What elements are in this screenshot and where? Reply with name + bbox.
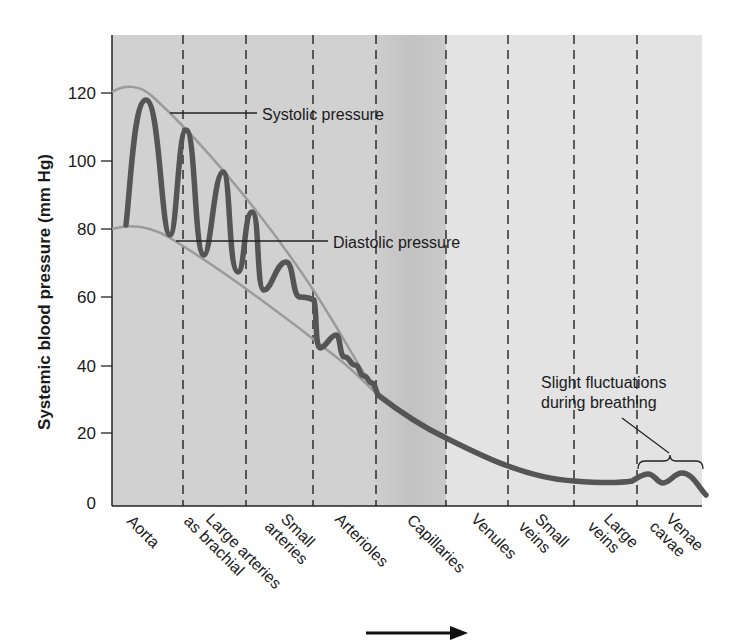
venous-region: [446, 35, 702, 506]
y-axis-title: Systemic blood pressure (mm Hg): [35, 154, 54, 430]
y-tick-60: 60: [77, 288, 96, 307]
y-ticks: [101, 93, 112, 433]
cat-venules: Venules: [468, 510, 520, 562]
plot-background: [112, 35, 702, 506]
y-tick-120: 120: [68, 84, 96, 103]
cat-arterioles: Arterioles: [332, 510, 392, 570]
y-tick-40: 40: [77, 357, 96, 376]
systolic-label: Systolic pressure: [262, 106, 384, 123]
cat-capillaries: Capillaries: [404, 511, 469, 576]
y-tick-100: 100: [68, 152, 96, 171]
breathing-label-line1: Slight fluctuations: [541, 374, 666, 391]
blood-pressure-chart: 120 100 80 60 40 20 0 Systemic blood pre…: [0, 0, 731, 640]
y-tick-20: 20: [77, 424, 96, 443]
y-tick-80: 80: [77, 220, 96, 239]
y-tick-labels: 120 100 80 60 40 20 0: [68, 84, 96, 513]
flow-direction-arrow-icon: [366, 626, 468, 640]
x-category-labels: Aorta Large arteries as brachial Small a…: [124, 500, 707, 604]
y-tick-0: 0: [87, 494, 96, 513]
breathing-label-line2: during breathing: [541, 394, 657, 411]
diastolic-label: Diastolic pressure: [333, 234, 460, 251]
cat-aorta: Aorta: [124, 512, 163, 551]
